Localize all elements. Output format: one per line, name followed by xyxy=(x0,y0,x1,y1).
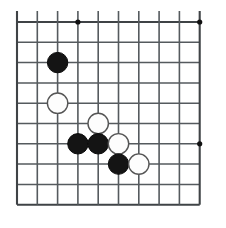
star-point-1 xyxy=(197,19,202,24)
black-stone-center-left[interactable] xyxy=(68,134,88,154)
star-point-2 xyxy=(197,141,202,146)
white-stone-center-right[interactable] xyxy=(108,134,128,154)
white-stone-left[interactable] xyxy=(47,93,67,113)
black-stone-center[interactable] xyxy=(88,134,108,154)
black-stone-upper-left[interactable] xyxy=(47,52,67,72)
grid-horizontal-lines xyxy=(17,22,200,205)
black-stone-lower[interactable] xyxy=(108,154,128,174)
star-point-0 xyxy=(75,19,80,24)
go-board-canvas[interactable] xyxy=(0,0,226,228)
white-stone-lower-right[interactable] xyxy=(129,154,149,174)
grid-vertical-lines xyxy=(17,11,200,205)
white-stone-center-top[interactable] xyxy=(88,113,108,133)
go-board-figure xyxy=(0,0,226,228)
